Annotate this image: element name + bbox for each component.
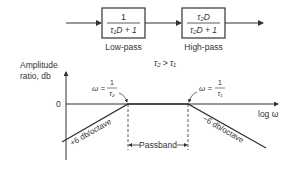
block1-denominator: τ₁D + 1 <box>110 25 137 35</box>
break1-lhs: ω = <box>92 84 105 93</box>
condition-label: τ₂ > τ₁ <box>154 58 176 68</box>
high-pass-label: High-pass <box>184 42 222 52</box>
y-axis-label-2: ratio, db <box>20 71 51 81</box>
passband-label: Passband <box>139 140 177 150</box>
block2-numerator: τ₂D <box>197 12 210 22</box>
block1-numerator: 1 <box>121 12 126 22</box>
slope-down-label: −6 db/octave <box>201 114 246 145</box>
block2-denominator: τ₂D + 1 <box>190 25 217 35</box>
break1-den: τ₂ <box>109 90 115 97</box>
zero-tick: 0 <box>56 99 61 109</box>
break1-num: 1 <box>110 79 114 86</box>
break2-num: 1 <box>218 79 222 86</box>
band-pass-diagram: 1 τ₁D + 1 Low-pass τ₂D τ₂D + 1 High-pass… <box>0 0 298 171</box>
break2-den: τ₁ <box>218 90 224 97</box>
x-axis-label: log ω <box>258 109 279 119</box>
low-pass-label: Low-pass <box>105 42 141 52</box>
y-axis-label-1: Amplitude <box>20 60 58 70</box>
break2-lhs: ω = <box>199 84 212 93</box>
slope-up-label: +6 db/octave <box>69 117 114 148</box>
